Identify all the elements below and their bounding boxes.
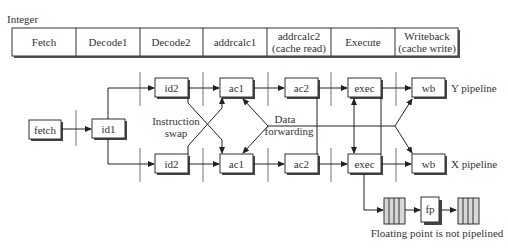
flow-arrows <box>61 88 456 210</box>
fp-unit: fp <box>421 197 442 225</box>
x-id2: id2 <box>164 158 178 170</box>
svg-text:fetch: fetch <box>34 124 56 136</box>
x-pipeline-label: X pipeline <box>451 158 497 170</box>
stage-writeback-sub: (cache write) <box>398 42 456 55</box>
fp-output-register <box>458 198 479 224</box>
y-ac2: ac2 <box>294 82 309 94</box>
svg-text:fp: fp <box>425 203 435 215</box>
stage-execute: Execute <box>345 36 381 48</box>
stage-addrcalc2-sub: (cache read) <box>272 42 326 55</box>
svg-text:id1: id1 <box>101 123 115 135</box>
x-ac2: ac2 <box>294 158 309 170</box>
fp-input-register <box>384 198 405 224</box>
forward-label-1: Data <box>275 113 296 125</box>
x-wb: wb <box>422 158 436 170</box>
stage-table: Fetch Decode1 Decode2 addrcalc1 addrcalc… <box>12 28 460 58</box>
y-pipeline-label: Y pipeline <box>451 82 497 94</box>
y-id2: id2 <box>164 82 178 94</box>
x-ac1: ac1 <box>229 158 244 170</box>
box-id1: id1 <box>92 119 127 140</box>
stage-addrcalc2: addrcalc2 <box>278 30 321 42</box>
y-ac1: ac1 <box>229 82 244 94</box>
swap-label-1: Instruction <box>152 115 200 127</box>
fp-caption: Floating point is not pipelined <box>371 227 504 239</box>
stage-decode2: Decode2 <box>151 36 190 48</box>
y-wb: wb <box>422 82 436 94</box>
stage-addrcalc1: addrcalc1 <box>214 36 257 48</box>
box-fetch: fetch <box>29 120 63 141</box>
forward-label-2: forwarding <box>265 125 314 137</box>
x-exec: exec <box>354 158 374 170</box>
forward-to-y-ac1 <box>243 99 268 126</box>
stage-fetch: Fetch <box>32 36 57 48</box>
y-exec: exec <box>354 82 374 94</box>
integer-label: Integer <box>7 13 38 25</box>
swap-label-2: swap <box>165 127 188 139</box>
stage-decode1: Decode1 <box>88 36 127 48</box>
stage-writeback: Writeback <box>404 30 450 42</box>
pipeline-diagram: Integer Fetch Decode1 Decode2 addrcalc1 … <box>0 0 508 249</box>
